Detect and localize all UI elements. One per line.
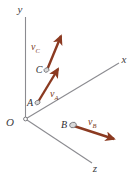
vector-va-label: vA <box>50 88 58 101</box>
vector-va-label-sub: A <box>53 94 58 101</box>
vector-vb-label-sub: B <box>92 122 96 129</box>
point-b-label: B <box>61 119 67 130</box>
point-c-group: C vC <box>31 36 61 75</box>
axes-group <box>24 17 119 163</box>
point-c-label: C <box>36 64 43 75</box>
origin-label: O <box>6 116 14 128</box>
coordinate-system-diagram: y x z O A vA C vC B vB <box>0 0 133 177</box>
vector-vb-label: vB <box>88 116 96 129</box>
y-axis-label: y <box>17 3 23 15</box>
vector-vc-shaft <box>47 36 61 70</box>
origin-marker <box>24 117 28 121</box>
z-axis-label: z <box>92 162 98 174</box>
vector-vc-label: vC <box>31 41 40 54</box>
x-axis-label: x <box>121 53 127 65</box>
z-axis-line <box>26 119 93 163</box>
vector-vc-label-sub: C <box>35 47 40 54</box>
figure-canvas: y x z O A vA C vC B vB <box>0 0 133 177</box>
point-a-label: A <box>26 97 34 108</box>
point-b-group: B vB <box>61 116 114 139</box>
